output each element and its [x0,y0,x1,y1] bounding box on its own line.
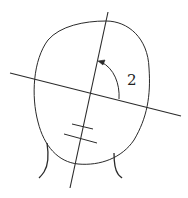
arrow-head-icon [98,60,105,65]
head-axis-diagram: 2 [0,0,188,198]
rotation-label: 2 [127,73,137,88]
head-outline [34,21,149,164]
rotation-arc [101,62,119,99]
neck-left-outline [39,143,48,178]
diagram-drawing [0,0,188,198]
